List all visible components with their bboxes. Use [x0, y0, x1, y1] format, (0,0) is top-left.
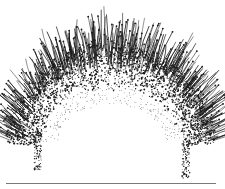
- baseline-rule: [6, 183, 216, 184]
- hair-arc-illustration: [0, 0, 225, 189]
